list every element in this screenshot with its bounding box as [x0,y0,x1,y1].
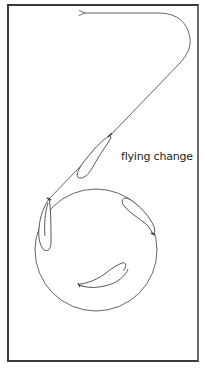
flying-change-label: flying change [121,150,193,163]
horse-bottom-of-circle [78,263,128,288]
horse-right-of-circle [122,198,155,235]
diagram-canvas [0,0,205,369]
horse-on-diagonal [77,133,112,178]
horse-left-of-circle [39,198,51,251]
exit-path [48,13,190,200]
